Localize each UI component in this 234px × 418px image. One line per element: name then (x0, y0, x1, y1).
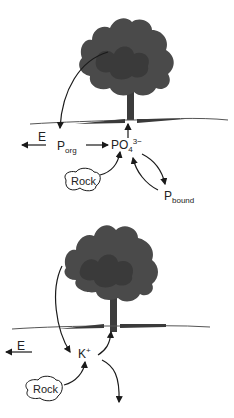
organic-p-label: Porg (57, 140, 77, 152)
rock-label-top: Rock (71, 176, 96, 187)
export-label-bottom: E (17, 340, 25, 352)
tree-bottom (64, 225, 158, 332)
bound-p-symbol: P (164, 189, 172, 203)
bound-p-subscript: bound (172, 196, 194, 205)
organic-p-symbol: P (57, 139, 65, 153)
phosphate-charge: 3− (133, 137, 142, 146)
potassium-symbol: K (78, 347, 86, 361)
potassium-charge: + (86, 346, 91, 355)
bound-p-label: Pbound (164, 190, 194, 202)
phosphate-symbol: PO (111, 138, 128, 152)
rock-label-bottom: Rock (33, 384, 58, 395)
diagram-canvas (0, 0, 234, 418)
phosphate-label: PO43− (111, 139, 142, 151)
organic-p-subscript: org (65, 146, 77, 155)
phosphate-subscript: 4 (128, 145, 132, 154)
export-label-top: E (38, 131, 46, 143)
potassium-label: K+ (78, 348, 91, 360)
tree-top (79, 18, 174, 120)
